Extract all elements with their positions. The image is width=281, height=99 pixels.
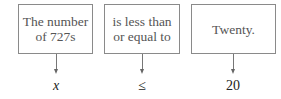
phrase-box-less-than-or-equal: is less than or equal to xyxy=(104,4,180,54)
symbol-number-20: 20 xyxy=(213,78,253,94)
phrase-box-twenty: Twenty. xyxy=(191,4,276,54)
down-arrow-icon xyxy=(56,54,57,70)
phrase-line: or equal to xyxy=(112,29,171,44)
phrase-line: is less than xyxy=(112,14,171,29)
phrase-box-number-of-727s: The number of 727s xyxy=(18,4,93,54)
phrase-line: The number xyxy=(23,14,89,29)
phrase-line: Twenty. xyxy=(212,22,255,37)
symbol-variable-x: x xyxy=(36,78,76,94)
symbol-less-than-or-equal: ≤ xyxy=(122,78,162,94)
down-arrow-icon xyxy=(142,54,143,70)
down-arrow-icon xyxy=(233,54,234,70)
phrase-line: of 727s xyxy=(23,29,89,44)
